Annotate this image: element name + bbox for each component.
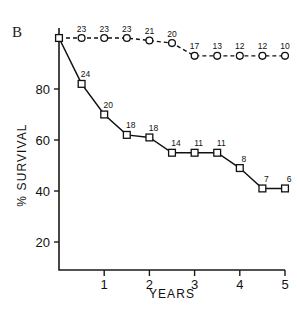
at-risk-label: 8: [241, 154, 246, 164]
at-risk-label: 11: [194, 138, 203, 148]
data-point-circle: [236, 52, 243, 59]
at-risk-label: 17: [190, 41, 200, 51]
at-risk-label: 23: [77, 24, 87, 34]
data-point-square: [214, 149, 221, 156]
y-tick-label: 80: [36, 82, 50, 97]
y-tick-label: 20: [36, 235, 50, 250]
data-point-circle: [259, 52, 266, 59]
data-point-square: [101, 111, 108, 118]
at-risk-label: 11: [217, 138, 226, 148]
data-point-circle: [146, 37, 153, 44]
at-risk-label: 14: [171, 138, 181, 148]
data-point-circle: [78, 35, 85, 42]
data-point-square: [56, 35, 63, 42]
data-point-circle: [101, 35, 108, 42]
data-point-square: [191, 149, 198, 156]
x-tick-label: 5: [281, 277, 288, 292]
x-axis-title: YEARS: [149, 287, 195, 301]
at-risk-label: 24: [81, 69, 91, 79]
series-group: [56, 35, 289, 192]
at-risk-label: 21: [145, 26, 155, 36]
at-risk-label: 23: [99, 24, 109, 34]
at-risk-label: 20: [167, 29, 177, 39]
data-point-circle: [191, 52, 198, 59]
x-tick-label: 1: [101, 277, 108, 292]
data-point-circle: [169, 40, 176, 47]
y-tick-label: 60: [36, 133, 50, 148]
at-risk-label: 18: [149, 123, 159, 133]
data-point-square: [78, 81, 85, 88]
series-line-lower-curve-solid: [59, 38, 285, 188]
data-point-circle: [214, 52, 221, 59]
data-point-square: [146, 134, 153, 141]
at-risk-label: 20: [103, 100, 113, 110]
at-risk-label: 6: [287, 174, 292, 184]
x-tick-label: 4: [236, 277, 243, 292]
at-risk-label: 10: [280, 41, 290, 51]
data-point-square: [236, 165, 243, 172]
data-point-circle: [123, 35, 130, 42]
at-risk-label: 12: [258, 41, 268, 51]
at-risk-label: 7: [264, 174, 269, 184]
at-risk-label: 12: [235, 41, 245, 51]
y-axis-title: % SURVIVAL: [15, 123, 29, 206]
data-point-square: [169, 149, 176, 156]
at-risk-label: 23: [122, 24, 132, 34]
risk-labels-group: 2323232120171312121024201818141111876: [77, 24, 292, 184]
data-point-square: [123, 132, 130, 139]
data-point-square: [259, 185, 266, 192]
at-risk-label: 18: [126, 120, 136, 130]
chart-svg: 2040608012345 23232321201713121210242018…: [0, 0, 297, 311]
at-risk-label: 13: [212, 41, 222, 51]
data-point-circle: [282, 52, 289, 59]
survival-chart-figure: B 2040608012345 232323212017131212102420…: [0, 0, 297, 311]
data-point-square: [282, 185, 289, 192]
y-tick-label: 40: [36, 184, 50, 199]
